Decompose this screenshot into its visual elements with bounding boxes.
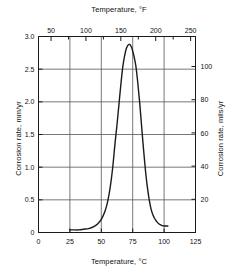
svg-text:75: 75: [129, 238, 137, 245]
svg-text:2.0: 2.0: [25, 98, 35, 105]
svg-text:125: 125: [190, 238, 202, 245]
svg-text:60: 60: [201, 130, 209, 137]
svg-text:250: 250: [185, 27, 197, 34]
svg-text:150: 150: [115, 27, 127, 34]
svg-text:0: 0: [37, 238, 41, 245]
svg-text:100: 100: [80, 27, 92, 34]
svg-text:2.5: 2.5: [25, 66, 35, 73]
svg-text:0: 0: [31, 229, 35, 236]
svg-text:200: 200: [150, 27, 162, 34]
svg-text:0.5: 0.5: [25, 196, 35, 203]
chart-figure: Temperature, °F Temperature, °C Corrosio…: [0, 0, 238, 273]
svg-text:50: 50: [47, 27, 55, 34]
svg-text:3.0: 3.0: [25, 33, 35, 40]
svg-text:1.5: 1.5: [25, 131, 35, 138]
svg-text:80: 80: [201, 96, 209, 103]
svg-text:100: 100: [158, 238, 170, 245]
svg-text:50: 50: [97, 238, 105, 245]
plot-area: 02550751001255010015020025000.51.01.52.0…: [0, 0, 238, 273]
axis-tick-labels: 02550751001255010015020025000.51.01.52.0…: [25, 27, 213, 245]
svg-text:20: 20: [201, 196, 209, 203]
svg-text:1.0: 1.0: [25, 164, 35, 171]
svg-text:40: 40: [201, 163, 209, 170]
svg-text:25: 25: [66, 238, 74, 245]
corrosion-rate-curve: [70, 44, 168, 230]
svg-text:100: 100: [201, 63, 213, 70]
gridlines: [39, 37, 196, 233]
